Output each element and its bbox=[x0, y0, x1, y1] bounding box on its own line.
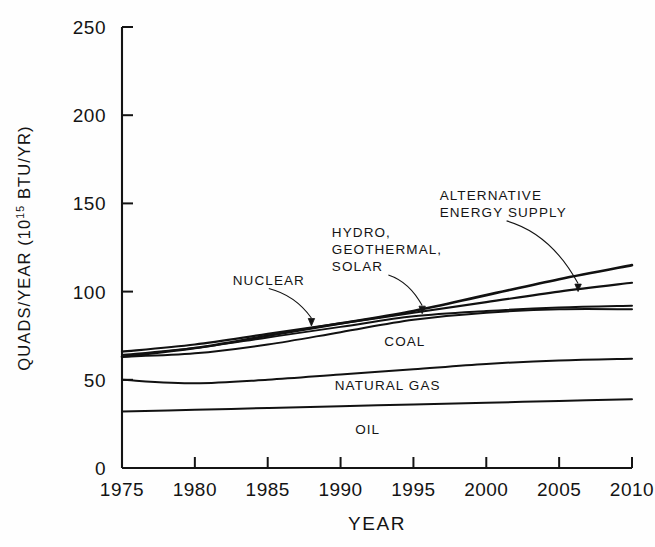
annotation-oil: OIL bbox=[355, 422, 380, 437]
annotation-line: NATURAL GAS bbox=[335, 378, 441, 393]
annotation-label-coal: COAL bbox=[384, 334, 425, 349]
y-tick-label: 100 bbox=[73, 282, 106, 303]
annotation-label-nuclear: NUCLEAR bbox=[233, 273, 305, 288]
annotation-line: HYDRO, bbox=[332, 225, 391, 240]
y-axis-title-tail: BTU/YR) bbox=[15, 125, 33, 204]
annotation-line: SOLAR bbox=[332, 259, 383, 274]
annotation-line: COAL bbox=[384, 334, 425, 349]
y-axis-title-exponent: 15 bbox=[14, 205, 26, 219]
x-tick-label: 2005 bbox=[537, 479, 581, 500]
x-tick-label: 2000 bbox=[464, 479, 508, 500]
x-axis-title: YEAR bbox=[348, 513, 406, 534]
y-axis-title: QUADS/YEAR (1015 BTU/YR) bbox=[14, 125, 33, 370]
x-tick-label: 1995 bbox=[391, 479, 435, 500]
y-tick-label: 200 bbox=[73, 105, 106, 126]
y-axis-title-main: QUADS/YEAR (10 bbox=[15, 219, 33, 371]
x-tick-label: 1980 bbox=[173, 479, 217, 500]
annotation-line: ALTERNATIVE bbox=[440, 188, 542, 203]
x-tick-label: 1975 bbox=[100, 479, 144, 500]
annotation-line: OIL bbox=[355, 422, 380, 437]
x-tick-label: 1990 bbox=[318, 479, 362, 500]
energy-supply-line-chart: 050100150200250 197519801985199019952000… bbox=[0, 0, 655, 547]
x-tick-label: 1985 bbox=[246, 479, 290, 500]
annotation-line: GEOTHERMAL, bbox=[332, 242, 442, 257]
annotation-line: ENERGY SUPPLY bbox=[440, 205, 567, 220]
annotation-line: NUCLEAR bbox=[233, 273, 305, 288]
annotation-label-oil: OIL bbox=[355, 422, 380, 437]
annotation-natural-gas: NATURAL GAS bbox=[335, 378, 441, 393]
x-tick-label: 2010 bbox=[610, 479, 654, 500]
y-tick-label: 150 bbox=[73, 193, 106, 214]
annotation-coal: COAL bbox=[384, 334, 425, 349]
y-tick-label: 0 bbox=[95, 458, 106, 479]
y-tick-label: 50 bbox=[84, 370, 106, 391]
y-axis-title-text: QUADS/YEAR (1015 BTU/YR) bbox=[14, 125, 33, 370]
y-tick-label: 250 bbox=[73, 17, 106, 38]
chart-figure: 050100150200250 197519801985199019952000… bbox=[0, 0, 655, 547]
annotation-label-natural-gas: NATURAL GAS bbox=[335, 378, 441, 393]
